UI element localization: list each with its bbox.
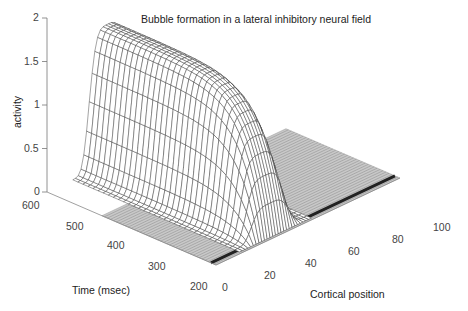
time-tick-300: 300 — [148, 260, 166, 272]
time-tick-400: 400 — [107, 239, 125, 251]
position-tick-20: 20 — [264, 269, 276, 281]
chart-title: Bubble formation in a lateral inhibitory… — [0, 13, 468, 25]
time-tick-600: 600 — [22, 199, 40, 211]
position-tick-40: 40 — [305, 257, 317, 269]
z-tick-0.5: 0.5 — [24, 142, 39, 154]
z-tick-0: 0 — [34, 185, 40, 197]
z-tick-1: 1 — [34, 98, 40, 110]
position-axis-label: Cortical position — [310, 288, 385, 300]
time-axis-label: Time (msec) — [72, 284, 130, 296]
z-tick-1.5: 1.5 — [24, 55, 39, 67]
z-tick-2: 2 — [33, 11, 39, 23]
surface-plot — [0, 0, 468, 311]
position-tick-0: 0 — [222, 281, 228, 293]
time-tick-200: 200 — [190, 280, 208, 292]
time-tick-500: 500 — [66, 220, 84, 232]
position-tick-100: 100 — [433, 221, 451, 233]
z-axis-label: activity — [11, 96, 23, 128]
position-tick-80: 80 — [392, 233, 404, 245]
position-tick-60: 60 — [348, 245, 360, 257]
